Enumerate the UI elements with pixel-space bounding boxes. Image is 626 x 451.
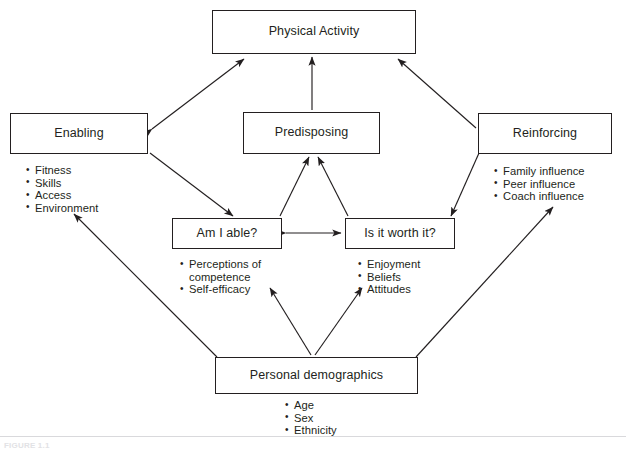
list-item: Peer influence [494,178,585,191]
bullets-personal-demographics: Age Sex Ethnicity [285,399,337,437]
edge-reinforcing-is-it-worth-it [451,153,479,216]
node-enabling-label: Enabling [54,127,103,141]
edge-is-it-worth-it-predisposing [318,157,348,216]
list-item: Self-efficacy [180,283,267,296]
list-item: Beliefs [358,271,420,284]
list-item: Family influence [494,165,585,178]
node-personal-demographics-label: Personal demographics [250,369,383,383]
bullets-am-i-able: Perceptions of competence Self-efficacy [180,258,267,296]
node-enabling[interactable]: Enabling [10,113,148,154]
list-item: Attitudes [358,283,420,296]
node-reinforcing[interactable]: Reinforcing [478,113,612,154]
list-item: Access [26,189,98,202]
edge-enabling-physical-activity [152,59,244,129]
figure-caption: FIGURE 1.1 [4,441,50,450]
node-physical-activity-label: Physical Activity [269,25,360,39]
node-personal-demographics[interactable]: Personal demographics [215,357,418,394]
node-am-i-able[interactable]: Am I able? [172,218,282,249]
bullets-enabling: Fitness Skills Access Environment [26,164,98,214]
bullets-reinforcing: Family influence Peer influence Coach in… [494,165,585,203]
node-predisposing[interactable]: Predisposing [243,112,380,154]
list-item: Coach influence [494,190,585,203]
node-predisposing-label: Predisposing [275,126,348,140]
list-item: Ethnicity [285,424,337,437]
list-item: Sex [285,412,337,425]
list-item: Perceptions of competence [180,258,267,283]
list-item: Environment [26,202,98,215]
edge-reinforcing-physical-activity [398,59,476,128]
list-item: Age [285,399,337,412]
figure-canvas: Physical Activity Enabling Predisposing … [0,0,626,451]
node-is-it-worth-it[interactable]: Is it worth it? [345,218,455,249]
edge-am-i-able-predisposing [280,157,309,216]
list-item: Fitness [26,164,98,177]
node-is-it-worth-it-label: Is it worth it? [364,227,436,241]
bullets-is-it-worth-it: Enjoyment Beliefs Attitudes [358,258,420,296]
node-physical-activity[interactable]: Physical Activity [212,10,416,54]
edge-demographics-am-i-able [270,288,311,355]
edge-enabling-am-i-able [150,153,233,216]
list-item: Enjoyment [358,258,420,271]
node-reinforcing-label: Reinforcing [513,127,577,141]
edge-demographics-is-it-worth-it [315,288,362,355]
node-am-i-able-label: Am I able? [197,227,258,241]
list-item: Skills [26,177,98,190]
